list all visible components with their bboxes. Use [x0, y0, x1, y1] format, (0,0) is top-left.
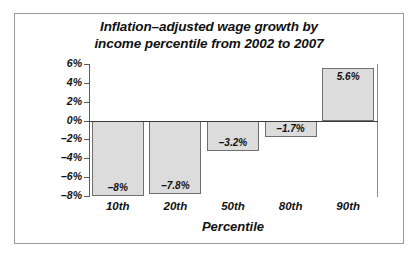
- bar-value-label: –7.8%: [149, 180, 201, 191]
- y-tick-label: –4%: [36, 151, 82, 163]
- bar-value-label: –1.7%: [265, 123, 317, 134]
- y-tick-label: 6%: [36, 57, 82, 69]
- y-tick-label: –2%: [36, 132, 82, 144]
- x-tick-label: 90th: [319, 200, 377, 212]
- bar-value-label: –8%: [92, 182, 144, 193]
- plot-right-spine: [377, 64, 378, 197]
- chart-title-line-2: income percentile from 2002 to 2007: [30, 35, 388, 52]
- y-tick-label: –6%: [36, 170, 82, 182]
- y-tick-label: 0%: [36, 114, 82, 126]
- plot-area: –8%–7.8%–3.2%–1.7%5.6%: [89, 64, 377, 196]
- x-tick-label: 50th: [204, 200, 262, 212]
- y-tick-label: –8%: [36, 189, 82, 201]
- chart-figure: Inflation–adjusted wage growth by income…: [0, 0, 418, 256]
- x-axis-title: Percentile: [89, 219, 377, 234]
- bar-value-label: –3.2%: [207, 137, 259, 148]
- y-tick-label: 4%: [36, 76, 82, 88]
- zero-baseline: [89, 121, 378, 122]
- bar-value-label: 5.6%: [322, 71, 374, 82]
- x-tick-label: 20th: [147, 200, 205, 212]
- chart-title: Inflation–adjusted wage growth by income…: [30, 18, 388, 52]
- y-tick-label: 2%: [36, 95, 82, 107]
- x-tick-label: 80th: [262, 200, 320, 212]
- chart-title-line-1: Inflation–adjusted wage growth by: [30, 18, 388, 35]
- x-tick-label: 10th: [89, 200, 147, 212]
- y-tick-mark: [84, 196, 89, 197]
